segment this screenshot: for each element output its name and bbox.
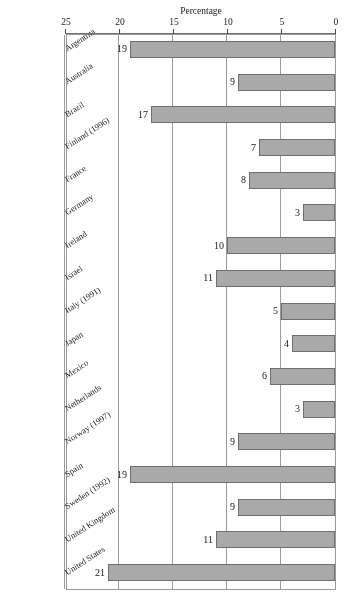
axis-tick-label: 10 bbox=[223, 17, 233, 27]
axis-tick-label: 20 bbox=[115, 17, 125, 27]
bar: 8 bbox=[249, 172, 335, 189]
axis-tick-label: 15 bbox=[169, 17, 179, 27]
category-label: Brazil bbox=[0, 99, 64, 132]
bar: 3 bbox=[303, 204, 335, 221]
bar: 6 bbox=[270, 368, 335, 385]
bar: 9 bbox=[238, 499, 335, 516]
category-label: United Kingdom bbox=[0, 525, 64, 558]
bar: 7 bbox=[259, 139, 335, 156]
bar: 21 bbox=[108, 564, 335, 581]
bar-row: 3 bbox=[66, 197, 335, 230]
bar-value-label: 21 bbox=[95, 568, 105, 578]
bar: 19 bbox=[130, 466, 335, 483]
category-label: Norway (1997) bbox=[0, 426, 64, 459]
category-label: Argentina bbox=[0, 34, 64, 67]
axis-tick-label: 0 bbox=[334, 17, 339, 27]
bar-value-label: 5 bbox=[273, 306, 278, 316]
bar-row: 11 bbox=[66, 262, 335, 295]
bar-value-label: 9 bbox=[230, 77, 235, 87]
bar-value-label: 3 bbox=[295, 208, 300, 218]
bar: 9 bbox=[238, 433, 335, 450]
bar: 9 bbox=[238, 74, 335, 91]
bar-value-label: 10 bbox=[214, 241, 224, 251]
category-label: Germany bbox=[0, 198, 64, 231]
bar-row: 7 bbox=[66, 131, 335, 164]
bar: 11 bbox=[216, 531, 335, 548]
axis-tick bbox=[281, 29, 282, 34]
category-label: Mexico bbox=[0, 361, 64, 394]
bar-value-label: 17 bbox=[138, 110, 148, 120]
bar-row: 5 bbox=[66, 295, 335, 328]
bar: 3 bbox=[303, 401, 335, 418]
axis-tick-label: 25 bbox=[61, 17, 71, 27]
category-label: Israel bbox=[0, 263, 64, 296]
bar: 17 bbox=[151, 106, 335, 123]
bar-value-label: 3 bbox=[295, 404, 300, 414]
axis-tick bbox=[65, 29, 66, 34]
category-label: Ireland bbox=[0, 230, 64, 263]
axis-tick bbox=[227, 29, 228, 34]
bar: 10 bbox=[227, 237, 335, 254]
bar-value-label: 11 bbox=[204, 535, 214, 545]
axis-tick bbox=[119, 29, 120, 34]
category-label: Italy (1991) bbox=[0, 296, 64, 329]
category-label: Netherlands bbox=[0, 394, 64, 427]
bar-row: 21 bbox=[66, 556, 335, 589]
bar-value-label: 7 bbox=[251, 143, 256, 153]
category-label: Australia bbox=[0, 67, 64, 100]
category-label: United States bbox=[0, 557, 64, 590]
bar-row: 4 bbox=[66, 327, 335, 360]
bar-row: 9 bbox=[66, 66, 335, 99]
rotated-figure-wrapper: 211191993645111038717919 United StatesUn… bbox=[0, 0, 356, 604]
category-label: Sweden (1992) bbox=[0, 492, 64, 525]
category-label: Japan bbox=[0, 328, 64, 361]
bar-value-label: 6 bbox=[262, 371, 267, 381]
bar: 4 bbox=[292, 335, 335, 352]
category-label: Spain bbox=[0, 459, 64, 492]
axis-tick-label: 5 bbox=[280, 17, 285, 27]
bar-value-label: 8 bbox=[241, 175, 246, 185]
bar-row: 19 bbox=[66, 33, 335, 66]
bar-value-label: 11 bbox=[204, 273, 214, 283]
category-label: France bbox=[0, 165, 64, 198]
category-label: Finland (1996) bbox=[0, 132, 64, 165]
bar: 11 bbox=[216, 270, 335, 287]
axis-tick bbox=[335, 29, 336, 34]
bar-value-label: 9 bbox=[230, 437, 235, 447]
bar-value-label: 19 bbox=[117, 44, 127, 54]
bar-chart-figure: 211191993645111038717919 United StatesUn… bbox=[0, 0, 356, 604]
chart-page: 211191993645111038717919 United StatesUn… bbox=[0, 0, 356, 604]
bar-row: 6 bbox=[66, 360, 335, 393]
value-axis-title: Percentage bbox=[66, 6, 336, 16]
bar-value-label: 19 bbox=[117, 470, 127, 480]
bar-row: 8 bbox=[66, 164, 335, 197]
bar: 19 bbox=[130, 41, 335, 58]
category-axis-labels: United StatesUnited KingdomSweden (1992)… bbox=[0, 34, 64, 590]
bar-value-label: 9 bbox=[230, 502, 235, 512]
axis-tick bbox=[173, 29, 174, 34]
bar-row: 9 bbox=[66, 425, 335, 458]
bar: 5 bbox=[281, 303, 335, 320]
bar-row: 10 bbox=[66, 229, 335, 262]
bar-value-label: 4 bbox=[284, 339, 289, 349]
